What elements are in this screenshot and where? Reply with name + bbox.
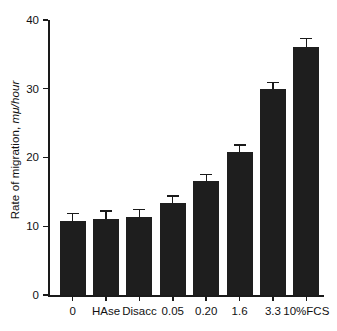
- error-bar-cap: [67, 213, 79, 214]
- y-axis-label: Rate of migration, mμ/hour: [9, 81, 21, 220]
- y-axis-tick-label: 10: [26, 220, 39, 232]
- x-axis-tick-label: HAse: [92, 305, 120, 317]
- bar: [193, 181, 219, 295]
- error-bar-cap: [234, 144, 246, 145]
- error-bar-cap: [200, 174, 212, 175]
- x-axis-tick-label: 10%FCS: [283, 305, 329, 317]
- bar: [126, 217, 152, 295]
- bar: [60, 221, 86, 295]
- x-axis-tick: [139, 296, 140, 301]
- y-axis-tick-label: 30: [26, 83, 39, 95]
- bar: [160, 203, 186, 295]
- bar: [227, 152, 253, 295]
- y-axis-label-container: Rate of migration, mμ/hour: [0, 0, 30, 300]
- y-axis-tick: 40: [43, 19, 48, 20]
- y-axis-tick-label: 40: [26, 14, 39, 26]
- bar: [293, 47, 319, 295]
- y-axis-tick: 10: [43, 226, 48, 227]
- x-axis-tick-label: Disacc: [122, 305, 157, 317]
- x-axis-tick-label: 0: [69, 305, 75, 317]
- error-bar-cap: [100, 210, 112, 211]
- x-axis-tick: [72, 296, 73, 301]
- y-axis-line: [48, 20, 50, 296]
- bar: [260, 89, 286, 295]
- y-axis-tick: 0: [43, 294, 48, 295]
- y-axis-tick: 20: [43, 157, 48, 158]
- error-bar-cap: [267, 82, 279, 83]
- x-axis-tick: [105, 296, 106, 301]
- x-axis-tick-label: 1.6: [232, 305, 248, 317]
- x-axis-line: [48, 295, 324, 297]
- x-axis-tick: [306, 296, 307, 301]
- x-axis-tick: [272, 296, 273, 301]
- x-axis-tick: [239, 296, 240, 301]
- x-axis-tick-label: 0.20: [195, 305, 217, 317]
- y-axis-label-units: mμ/hour: [9, 81, 21, 124]
- x-axis-tick-label: 0.05: [162, 305, 184, 317]
- y-axis-label-prefix: Rate of migration,: [9, 123, 21, 219]
- error-bar-cap: [167, 195, 179, 196]
- y-axis-tick: 30: [43, 88, 48, 89]
- y-axis-tick-label: 20: [26, 151, 39, 163]
- bar-chart-figure: Rate of migration, mμ/hour 010203040 0HA…: [0, 0, 337, 331]
- plot-area: 010203040 0HAseDisacc0.050.201.63.310%FC…: [48, 20, 323, 295]
- x-axis-tick-label: 3.3: [265, 305, 281, 317]
- error-bar-cap: [300, 38, 312, 39]
- x-axis-tick: [172, 296, 173, 301]
- bar: [93, 219, 119, 295]
- x-axis-tick: [205, 296, 206, 301]
- y-axis-tick-label: 0: [33, 289, 39, 301]
- error-bar-cap: [133, 209, 145, 210]
